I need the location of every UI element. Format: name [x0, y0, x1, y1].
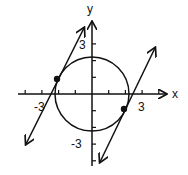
x-axis-label: x [172, 87, 178, 101]
graph-canvas: x y -3 3 3 -3 [0, 0, 188, 175]
y-axis-label: y [87, 2, 93, 16]
line-lower-right [100, 48, 155, 162]
tangent-point-right [121, 106, 127, 112]
y-tick-label-neg: -3 [71, 137, 82, 151]
x-tick-label-pos: 3 [138, 100, 145, 114]
x-tick-label-neg: -3 [34, 100, 45, 114]
tangent-point-left [54, 76, 60, 82]
y-tick-label-pos: 3 [79, 38, 86, 52]
